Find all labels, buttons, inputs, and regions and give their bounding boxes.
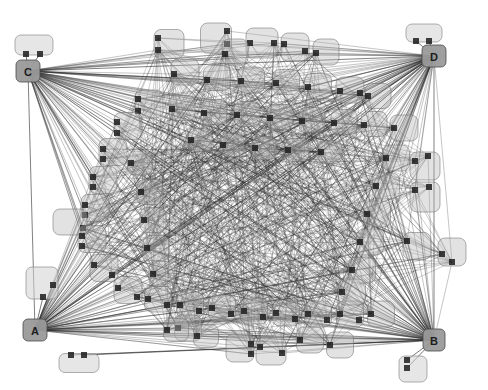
graph-node[interactable] xyxy=(89,167,117,194)
node-port[interactable] xyxy=(90,174,96,180)
graph-node[interactable] xyxy=(78,226,106,253)
node-port[interactable] xyxy=(305,311,311,317)
node-port[interactable] xyxy=(209,305,215,311)
node-port[interactable] xyxy=(40,294,46,300)
node-port[interactable] xyxy=(449,259,455,265)
node-port[interactable] xyxy=(248,351,254,357)
graph-node[interactable] xyxy=(368,301,395,327)
hub-node-c[interactable]: C xyxy=(16,60,40,82)
graph-node[interactable] xyxy=(339,279,366,305)
graph-node[interactable] xyxy=(299,108,325,133)
node-port[interactable] xyxy=(100,156,106,162)
graph-node[interactable] xyxy=(285,139,309,162)
node-port[interactable] xyxy=(128,160,134,166)
node-port[interactable] xyxy=(412,187,418,193)
node-port[interactable] xyxy=(383,155,389,161)
node-port[interactable] xyxy=(324,317,330,323)
node-port[interactable] xyxy=(196,308,202,314)
satellite-node[interactable] xyxy=(406,24,442,44)
node-port[interactable] xyxy=(138,189,144,195)
graph-node[interactable] xyxy=(194,325,219,348)
node-port[interactable] xyxy=(361,122,367,128)
node-port[interactable] xyxy=(79,243,85,249)
node-port[interactable] xyxy=(281,41,287,47)
node-port[interactable] xyxy=(194,333,200,339)
graph-node[interactable] xyxy=(209,295,236,321)
graph-node[interactable] xyxy=(267,105,293,130)
node-port[interactable] xyxy=(368,311,374,317)
node-port[interactable] xyxy=(260,314,266,320)
node-port[interactable] xyxy=(318,149,324,155)
graph-node[interactable] xyxy=(154,30,184,59)
graph-node[interactable] xyxy=(222,39,248,65)
node-port[interactable] xyxy=(365,93,371,99)
node-port[interactable] xyxy=(135,96,141,102)
node-port[interactable] xyxy=(164,302,170,308)
node-port[interactable] xyxy=(248,341,254,347)
node-port[interactable] xyxy=(425,153,431,159)
satellite-node[interactable] xyxy=(26,267,58,300)
node-port[interactable] xyxy=(228,311,234,317)
node-port[interactable] xyxy=(357,90,363,96)
graph-node[interactable] xyxy=(305,74,332,99)
graph-node[interactable] xyxy=(143,236,169,261)
node-port[interactable] xyxy=(100,146,106,152)
node-port[interactable] xyxy=(234,112,240,118)
node-port[interactable] xyxy=(145,296,151,302)
graph-node[interactable] xyxy=(238,67,265,93)
graph-node[interactable] xyxy=(281,33,309,61)
hub-node-a[interactable]: A xyxy=(23,319,47,341)
node-port[interactable] xyxy=(82,202,88,208)
node-port[interactable] xyxy=(220,142,226,148)
graph-node[interactable] xyxy=(140,208,166,233)
node-port[interactable] xyxy=(144,245,150,251)
graph-node[interactable] xyxy=(241,298,268,324)
node-port[interactable] xyxy=(267,115,273,121)
graph-node[interactable] xyxy=(273,70,300,95)
node-port[interactable] xyxy=(224,28,230,34)
node-port[interactable] xyxy=(114,130,120,136)
graph-node[interactable] xyxy=(226,334,254,362)
node-port[interactable] xyxy=(337,88,343,94)
graph-node[interactable] xyxy=(164,319,189,342)
node-port[interactable] xyxy=(155,47,161,53)
node-port[interactable] xyxy=(115,285,121,291)
node-port[interactable] xyxy=(252,145,258,151)
node-port[interactable] xyxy=(238,78,244,84)
node-port[interactable] xyxy=(241,308,247,314)
node-port[interactable] xyxy=(204,77,210,83)
node-port[interactable] xyxy=(90,184,96,190)
graph-node[interactable] xyxy=(90,255,118,282)
node-port[interactable] xyxy=(79,233,85,239)
graph-node[interactable] xyxy=(177,292,204,318)
graph-node[interactable] xyxy=(204,66,231,91)
graph-node[interactable] xyxy=(361,112,387,137)
node-port[interactable] xyxy=(297,337,303,343)
node-port[interactable] xyxy=(331,120,337,126)
node-port[interactable] xyxy=(404,357,410,363)
graph-node[interactable] xyxy=(256,337,286,365)
graph-node[interactable] xyxy=(313,39,339,65)
hub-node-b[interactable]: B xyxy=(423,329,445,351)
graph-node[interactable] xyxy=(128,151,153,175)
graph-node[interactable] xyxy=(171,59,199,85)
node-port[interactable] xyxy=(339,289,345,295)
node-port[interactable] xyxy=(37,51,43,57)
node-port[interactable] xyxy=(141,217,147,223)
graph-node[interactable] xyxy=(331,110,357,135)
node-port[interactable] xyxy=(201,110,207,116)
node-port[interactable] xyxy=(222,51,228,57)
node-port[interactable] xyxy=(364,211,370,217)
node-port[interactable] xyxy=(413,38,419,44)
graph-node[interactable] xyxy=(220,134,244,157)
node-port[interactable] xyxy=(299,118,305,124)
graph-node[interactable] xyxy=(365,84,391,109)
node-port[interactable] xyxy=(91,262,97,268)
node-port[interactable] xyxy=(68,352,74,358)
node-port[interactable] xyxy=(171,71,177,77)
graph-node[interactable] xyxy=(188,129,212,152)
graph-node[interactable] xyxy=(114,113,142,140)
graph-node[interactable] xyxy=(246,28,278,58)
node-port[interactable] xyxy=(404,365,410,371)
node-port[interactable] xyxy=(391,125,397,131)
